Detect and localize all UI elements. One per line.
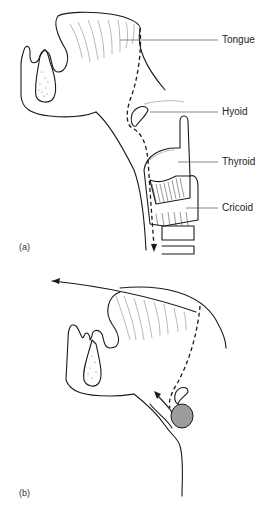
panel-label-b: (b) — [19, 488, 30, 498]
tongue-b-striations — [116, 296, 186, 340]
panel-b-drawing — [0, 0, 271, 508]
bolus — [171, 404, 193, 428]
arrow-left-icon — [52, 278, 60, 284]
tooth-b-stipple — [88, 356, 97, 379]
